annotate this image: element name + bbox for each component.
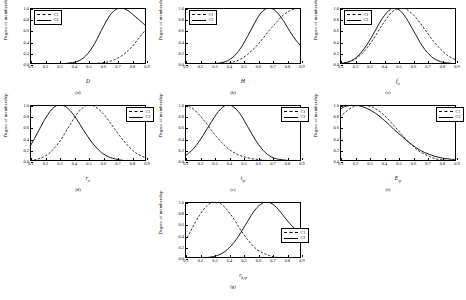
caption-f: (f) — [310, 187, 466, 192]
y-tick-label: 0.2 — [333, 52, 338, 56]
x-tick-label: 0.6 — [411, 162, 416, 166]
caption-a: (a) — [0, 90, 156, 95]
y-tick-label: 0.2 — [333, 149, 338, 153]
x-tick-label: 0.4 — [227, 259, 232, 263]
x-tick-label: 0.5 — [241, 65, 246, 69]
x-axis-title-b: H — [185, 78, 301, 86]
caption-e: (e) — [155, 187, 311, 192]
y-axis-title-e: Degree of membership — [158, 85, 163, 147]
x-tick-label: 0.1 — [338, 65, 343, 69]
legend-entry-c2: C2 — [37, 18, 58, 23]
x-tick-label: 0.6 — [101, 65, 106, 69]
x-tick-label: 0.4 — [72, 162, 77, 166]
x-tick-label: 0.4 — [227, 162, 232, 166]
y-tick-label: 1.0 — [178, 104, 183, 108]
dashed-line-icon — [347, 14, 361, 15]
x-tick-label: 0.6 — [101, 162, 106, 166]
y-tick-label: 1.0 — [178, 7, 183, 11]
legend-label-c2: C2 — [363, 18, 368, 22]
y-tick-label: 0.2 — [178, 52, 183, 56]
x-tick-label: 0.2 — [43, 162, 48, 166]
legend-b: C1 C2 — [189, 10, 217, 25]
x-tick-label: 0.8 — [440, 65, 445, 69]
x-tick-label: 0.8 — [440, 162, 445, 166]
panel-c: Degree of membership 0.00.20.40.60.81.00… — [310, 2, 466, 88]
x-tick-label: 0.4 — [382, 65, 387, 69]
plot-area-c: Degree of membership 0.00.20.40.60.81.00… — [310, 2, 466, 88]
y-tick-label: 0.8 — [178, 212, 183, 216]
caption-g: (g) — [155, 284, 311, 289]
y-tick-label: 0.6 — [178, 223, 183, 227]
solid-line-icon — [347, 20, 361, 21]
x-tick-label: 0.2 — [43, 65, 48, 69]
y-tick-label: 1.0 — [178, 201, 183, 205]
y-tick-label: 0.2 — [178, 246, 183, 250]
x-tick-label: 0.1 — [183, 162, 188, 166]
legend-label-c2: C2 — [456, 115, 461, 119]
x-tick-label: 0.5 — [241, 162, 246, 166]
x-tick-label: 0.7 — [270, 259, 275, 263]
x-tick-label: 0.8 — [130, 65, 135, 69]
solid-line-icon — [192, 20, 206, 21]
plot-area-a: Degree of membership 0.00.20.40.60.81.00… — [0, 2, 156, 88]
x-tick-label: 0.6 — [256, 259, 261, 263]
panel-d: Degree of membership 0.00.20.40.60.81.00… — [0, 99, 156, 185]
panel-f: Degree of membership 0.00.20.40.60.81.00… — [310, 99, 466, 185]
x-tick-label: 0.3 — [57, 65, 62, 69]
y-tick-label: 0.8 — [333, 18, 338, 22]
x-tick-label: 0.7 — [115, 65, 120, 69]
y-tick-label: 0.6 — [178, 126, 183, 130]
plot-area-d: Degree of membership 0.00.20.40.60.81.00… — [0, 99, 156, 185]
x-tick-label: 0.1 — [28, 162, 33, 166]
x-tick-label: 0.2 — [198, 65, 203, 69]
plot-area-e: Degree of membership 0.00.20.40.60.81.00… — [155, 99, 311, 185]
x-tick-label: 0.2 — [198, 259, 203, 263]
legend-entry-c2: C2 — [439, 115, 460, 120]
y-tick-label: 0.4 — [178, 40, 183, 44]
x-tick-mark — [302, 158, 303, 160]
x-tick-label: 0.5 — [241, 259, 246, 263]
figure-grid: Degree of membership 0.00.20.40.60.81.00… — [0, 0, 466, 300]
y-axis-title-c: Degree of membership — [313, 0, 318, 50]
x-tick-label: 0.1 — [183, 259, 188, 263]
plot-area-b: Degree of membership 0.00.20.40.60.81.00… — [155, 2, 311, 88]
x-tick-label: 0.2 — [198, 162, 203, 166]
x-axis-title-c: fsr — [340, 78, 456, 86]
x-tick-label: 0.4 — [72, 65, 77, 69]
y-tick-label: 0.4 — [333, 137, 338, 141]
panel-a: Degree of membership 0.00.20.40.60.81.00… — [0, 2, 156, 88]
legend-d: C1 C2 — [126, 107, 154, 122]
x-tick-mark — [457, 158, 458, 160]
legend-label-c2: C2 — [146, 115, 151, 119]
plot-area-g: Degree of membership 0.00.20.40.60.81.00… — [155, 196, 311, 282]
y-axis-title-b: Degree of membership — [158, 0, 163, 50]
x-tick-label: 0.7 — [270, 162, 275, 166]
y-axis-title-d: Degree of membership — [3, 85, 8, 147]
x-tick-label: 0.4 — [382, 162, 387, 166]
x-tick-label: 0.7 — [115, 162, 120, 166]
x-tick-label: 0.7 — [425, 162, 430, 166]
x-tick-label: 0.6 — [256, 65, 261, 69]
solid-line-icon — [284, 117, 298, 118]
y-tick-label: 0.8 — [23, 18, 28, 22]
legend-f: C1 C2 — [436, 107, 464, 122]
x-tick-label: 0.2 — [353, 162, 358, 166]
x-tick-label: 0.3 — [367, 65, 372, 69]
plot-area-f: Degree of membership 0.00.20.40.60.81.00… — [310, 99, 466, 185]
x-tick-label: 0.9 — [299, 162, 304, 166]
panel-g: Degree of membership 0.00.20.40.60.81.00… — [155, 196, 311, 282]
x-tick-label: 0.6 — [411, 65, 416, 69]
series-c1-curve — [30, 29, 146, 64]
x-tick-label: 0.1 — [183, 65, 188, 69]
legend-label-c2: C2 — [301, 236, 306, 240]
y-tick-label: 0.6 — [178, 29, 183, 33]
dashed-line-icon — [129, 111, 143, 112]
x-tick-label: 0.9 — [299, 259, 304, 263]
caption-b: (b) — [155, 90, 311, 95]
x-axis-title-d: rsr — [30, 175, 146, 183]
y-tick-label: 0.2 — [178, 149, 183, 153]
y-tick-label: 0.6 — [23, 29, 28, 33]
legend-g: C1 C2 — [281, 228, 309, 243]
panel-b: Degree of membership 0.00.20.40.60.81.00… — [155, 2, 311, 88]
y-tick-label: 0.8 — [333, 115, 338, 119]
